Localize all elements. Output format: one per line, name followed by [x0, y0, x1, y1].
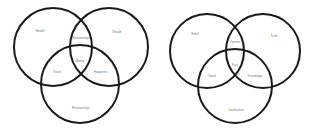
- venn-circles: [157, 0, 314, 135]
- label-top-overlap: Relationships: [72, 36, 90, 40]
- venn-circles: [0, 0, 157, 135]
- label-bottom: Relationships: [72, 106, 90, 110]
- label-top-overlap: Opinion: [230, 40, 240, 44]
- circle-bottom: [41, 45, 119, 123]
- circle-top-right: [226, 14, 300, 88]
- circle-top-left: [170, 14, 244, 88]
- venn-diagram-left: Health Wealth Relationships Money Travel…: [0, 0, 157, 135]
- label-right-overlap: Knowledge: [248, 74, 263, 78]
- label-center: Money: [75, 59, 84, 63]
- label-center: Fact: [232, 63, 238, 67]
- label-top-left: Health: [36, 29, 45, 33]
- label-right-overlap: Happiness: [94, 70, 108, 74]
- label-top-left: Belief: [191, 32, 199, 36]
- venn-diagram-right: Belief Truth Opinion Fact Good Knowledge…: [157, 0, 314, 135]
- label-top-right: Truth: [271, 34, 278, 38]
- label-bottom: Justification: [228, 108, 244, 112]
- circle-top-right: [70, 8, 148, 86]
- label-top-right: Wealth: [112, 30, 121, 34]
- label-left-overlap: Good: [208, 74, 215, 78]
- label-left-overlap: Travel: [53, 70, 61, 74]
